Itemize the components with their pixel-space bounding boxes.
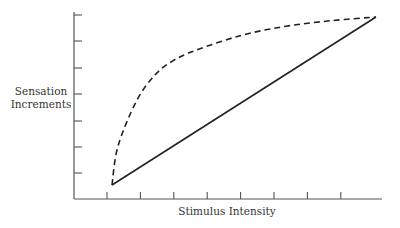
x-axis (74, 192, 382, 199)
series-linear-line (112, 17, 376, 185)
x-axis-label: Stimulus Intensity (178, 205, 275, 217)
x-ticks (107, 192, 341, 199)
y-axis-label-line1: Sensation (15, 85, 68, 97)
y-ticks (74, 15, 82, 173)
y-axis (74, 12, 82, 199)
chart: Sensation Increments Stimulus Intensity (0, 0, 400, 228)
y-axis-label-line2: Increments (11, 98, 72, 110)
series-group (112, 17, 376, 185)
